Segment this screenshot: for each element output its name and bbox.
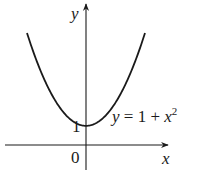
y-axis-label: y — [71, 5, 79, 22]
equation-y: y — [112, 107, 120, 126]
equation-annotation: y = 1 + x2 — [112, 106, 177, 125]
equation-exponent: 2 — [172, 105, 178, 117]
equation-body: = 1 + — [120, 107, 165, 126]
origin-label: 0 — [71, 149, 80, 166]
parabola-plot — [0, 0, 197, 170]
y-intercept-label: 1 — [72, 118, 81, 135]
x-axis-label: x — [162, 150, 170, 167]
equation-x: x — [164, 107, 172, 126]
